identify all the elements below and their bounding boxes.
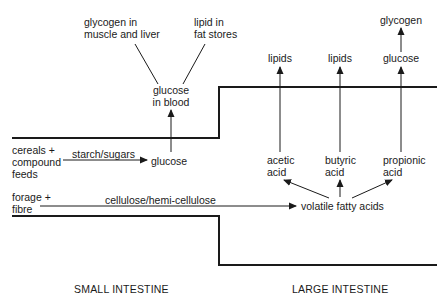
cereals-line3: feeds bbox=[12, 168, 61, 180]
input-forage: forage + fibre bbox=[12, 191, 51, 215]
glycogen-line2: muscle and liver bbox=[84, 28, 160, 40]
glycogen-line1: glycogen in bbox=[84, 16, 160, 28]
cereals-line2: compound bbox=[12, 156, 61, 168]
input-cereals: cereals + compound feeds bbox=[12, 144, 61, 180]
lipid-line2: fat stores bbox=[194, 28, 237, 40]
node-glucose-small: glucose bbox=[151, 155, 187, 167]
caption-small-intestine: SMALL INTESTINE bbox=[74, 283, 169, 293]
cereals-line1: cereals + bbox=[12, 144, 61, 156]
lower-wall bbox=[12, 216, 437, 265]
node-propionic-acid: propionic acid bbox=[383, 154, 426, 178]
lipid-line1: lipid in bbox=[194, 16, 237, 28]
node-volatile-fatty-acids: volatile fatty acids bbox=[301, 200, 384, 212]
glucose-blood-line1: glucose bbox=[153, 84, 190, 96]
node-lipids-acetic: lipids bbox=[268, 52, 292, 64]
forage-line1: forage + bbox=[12, 191, 51, 203]
glucose-blood-line2: in blood bbox=[153, 96, 190, 108]
acetic-line2: acid bbox=[267, 166, 294, 178]
acetic-line1: acetic bbox=[267, 154, 294, 166]
node-glycogen-muscle-liver: glycogen in muscle and liver bbox=[84, 16, 160, 40]
label-starch: starch/sugars bbox=[72, 148, 135, 160]
node-glycogen-large: glycogen bbox=[380, 14, 422, 26]
propionic-line1: propionic bbox=[383, 154, 426, 166]
node-butyric-acid: butyric acid bbox=[325, 154, 356, 178]
butyric-line1: butyric bbox=[325, 154, 356, 166]
node-acetic-acid: acetic acid bbox=[267, 154, 294, 178]
label-cellulose: cellulose/hemi-cellulose bbox=[105, 194, 216, 206]
node-lipids-butyric: lipids bbox=[328, 52, 352, 64]
diagram-lines bbox=[0, 0, 447, 293]
node-glucose-large: glucose bbox=[383, 52, 419, 64]
caption-large-intestine: LARGE INTESTINE bbox=[292, 283, 388, 293]
butyric-line2: acid bbox=[325, 166, 356, 178]
node-glucose-in-blood: glucose in blood bbox=[153, 84, 190, 108]
upper-wall bbox=[12, 87, 437, 138]
propionic-line2: acid bbox=[383, 166, 426, 178]
node-lipid-fat-stores: lipid in fat stores bbox=[194, 16, 237, 40]
forage-line2: fibre bbox=[12, 203, 51, 215]
